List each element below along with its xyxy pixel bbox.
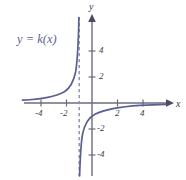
coordinate-plane-svg bbox=[0, 0, 186, 180]
curve-left-branch bbox=[23, 18, 79, 101]
x-tick-label-2: 2 bbox=[115, 109, 120, 118]
graph-figure: y = k(x) x y -4 -2 2 4 4 2 -2 -4 bbox=[0, 0, 186, 180]
x-tick-label-neg2: -2 bbox=[60, 109, 68, 118]
y-tick-label-neg4: -4 bbox=[97, 150, 105, 159]
y-tick-label-4: 4 bbox=[99, 46, 104, 55]
y-axis-arrowhead bbox=[88, 14, 96, 22]
x-tick-label-neg4: -4 bbox=[35, 109, 43, 118]
function-label: y = k(x) bbox=[17, 33, 57, 46]
x-tick-label-4: 4 bbox=[140, 109, 145, 118]
y-tick-label-2: 2 bbox=[99, 72, 104, 81]
y-axis-label: y bbox=[89, 2, 93, 12]
y-tick-label-neg2: -2 bbox=[97, 124, 105, 133]
x-axis-label: x bbox=[176, 99, 180, 109]
x-axis-arrowhead bbox=[166, 99, 174, 107]
